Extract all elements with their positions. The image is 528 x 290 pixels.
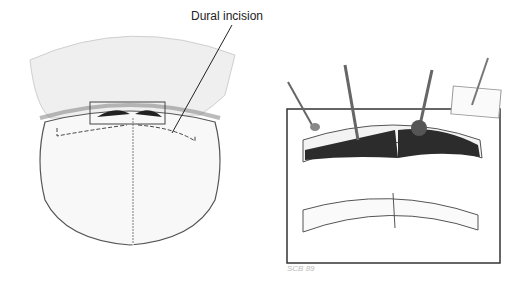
illustration <box>0 0 528 290</box>
skull <box>40 105 220 245</box>
artist-signature: SCB 89 <box>287 264 315 273</box>
dural-incision-label: Dural incision <box>191 9 263 23</box>
